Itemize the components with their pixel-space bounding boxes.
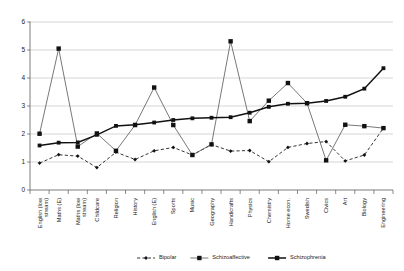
data-point-marker bbox=[152, 149, 156, 153]
x-tick-label: Sports bbox=[170, 198, 176, 214]
data-point-marker bbox=[114, 149, 118, 153]
x-tick-label: Swedish bbox=[304, 198, 310, 219]
x-tick-label: Home econ. bbox=[285, 198, 291, 229]
data-point-marker bbox=[229, 149, 233, 153]
legend-marker-swatch bbox=[197, 256, 201, 260]
data-point-marker bbox=[228, 39, 232, 43]
y-tick-label: 5 bbox=[21, 46, 25, 53]
data-point-marker bbox=[95, 166, 99, 170]
legend-label: Schizophrenia bbox=[290, 254, 326, 260]
data-point-marker bbox=[190, 153, 194, 157]
x-tick-label-line: Biology bbox=[361, 198, 367, 217]
data-point-marker bbox=[343, 123, 347, 127]
data-point-marker bbox=[343, 95, 347, 99]
data-point-marker bbox=[248, 111, 252, 115]
data-point-marker bbox=[171, 123, 175, 127]
x-tick-label-line: Home econ. bbox=[285, 198, 291, 229]
x-tick-label: Engineering bbox=[380, 198, 386, 228]
y-tick-label: 1 bbox=[21, 158, 25, 165]
data-point-marker bbox=[305, 101, 309, 105]
series-lines-group bbox=[40, 41, 384, 167]
x-tick-label-line: Handicrafts bbox=[228, 198, 234, 226]
y-tick-label: 3 bbox=[21, 102, 25, 109]
x-tick-label: Childcare bbox=[94, 198, 100, 222]
data-point-marker bbox=[37, 132, 41, 136]
x-tick-label: Maths (lowstream) bbox=[75, 197, 87, 225]
x-tick-label-line: Sports bbox=[170, 198, 176, 214]
chart-legend: BipolarSchizoaffectiveSchizophrenia bbox=[137, 254, 326, 260]
data-point-marker bbox=[133, 158, 137, 162]
data-point-marker bbox=[362, 124, 366, 128]
x-tick-label-line: English (E) bbox=[151, 198, 157, 225]
x-tick-label-line: Geography bbox=[209, 198, 215, 226]
data-point-marker bbox=[248, 119, 252, 123]
x-tick-label-line: Civics bbox=[323, 198, 329, 213]
data-point-marker bbox=[209, 142, 213, 146]
x-tick-label-line: stream) bbox=[43, 198, 49, 217]
data-point-marker bbox=[381, 126, 385, 130]
legend-marker-swatch bbox=[275, 256, 279, 260]
data-point-marker bbox=[267, 98, 271, 102]
x-tick-label-line: Chemistry bbox=[266, 198, 272, 223]
x-tick-label: Physics bbox=[247, 198, 253, 217]
data-point-marker bbox=[286, 102, 290, 106]
data-point-marker bbox=[305, 142, 309, 146]
x-tick-label: Civics bbox=[323, 198, 329, 213]
legend-item-schizoaffective[interactable]: Schizoaffective bbox=[190, 254, 250, 260]
x-tick-label-line: Childcare bbox=[94, 198, 100, 222]
legend-item-bipolar[interactable]: Bipolar bbox=[137, 254, 177, 260]
y-axis-tick-labels: 0123456 bbox=[21, 18, 25, 193]
x-tick-label-line: Maths (E) bbox=[56, 198, 62, 222]
data-point-marker bbox=[286, 81, 290, 85]
x-tick-label: Maths (E) bbox=[56, 198, 62, 222]
x-tick-label-line: stream) bbox=[81, 198, 87, 217]
legend-label: Schizoaffective bbox=[212, 254, 250, 260]
x-tick-label-line: Art bbox=[342, 198, 348, 206]
data-point-marker bbox=[267, 160, 271, 164]
legend-item-schizophrenia[interactable]: Schizophrenia bbox=[268, 254, 326, 260]
x-tick-label: Biology bbox=[361, 198, 367, 217]
y-tick-marks-group bbox=[27, 22, 30, 190]
x-tick-label-line: Religion bbox=[113, 198, 119, 218]
data-point-marker bbox=[248, 149, 252, 153]
line-chart: 0123456 English (lowstream)Maths (E)Math… bbox=[0, 0, 404, 271]
x-tick-label-line: Maths (low bbox=[75, 197, 81, 225]
x-tick-label: English (lowstream) bbox=[37, 197, 49, 228]
x-tick-label: English (E) bbox=[151, 198, 157, 225]
x-tick-label: Handicrafts bbox=[228, 198, 234, 226]
x-tick-label: Chemistry bbox=[266, 198, 272, 223]
data-point-marker bbox=[57, 153, 61, 157]
x-tick-label: Religion bbox=[113, 198, 119, 218]
x-tick-label-line: History bbox=[132, 198, 138, 216]
data-point-marker bbox=[114, 124, 118, 128]
data-point-marker bbox=[76, 144, 80, 148]
data-point-marker bbox=[286, 146, 290, 150]
x-axis-tick-labels: English (lowstream)Maths (E)Maths (lowst… bbox=[37, 197, 387, 228]
data-point-marker bbox=[171, 118, 175, 122]
data-point-marker bbox=[152, 85, 156, 89]
data-point-marker bbox=[152, 121, 156, 125]
x-tick-label-line: Swedish bbox=[304, 198, 310, 219]
data-point-marker bbox=[362, 87, 366, 91]
y-tick-label: 4 bbox=[21, 74, 25, 81]
data-point-marker bbox=[95, 133, 99, 137]
data-point-marker bbox=[76, 154, 80, 158]
data-point-marker bbox=[76, 141, 80, 145]
y-tick-label: 6 bbox=[21, 18, 25, 25]
x-tick-label-line: Engineering bbox=[380, 198, 386, 228]
x-tick-label-line: Music bbox=[189, 198, 195, 213]
x-tick-label: Music bbox=[189, 198, 195, 213]
data-point-marker bbox=[38, 144, 42, 148]
data-point-marker bbox=[324, 99, 328, 103]
x-tick-label: Geography bbox=[209, 198, 215, 226]
x-tick-label-line: English (low bbox=[37, 197, 43, 228]
series-markers-group bbox=[37, 39, 385, 169]
x-tick-label-line: Physics bbox=[247, 198, 253, 217]
data-point-marker bbox=[267, 105, 271, 109]
data-point-marker bbox=[382, 66, 386, 70]
y-tick-label: 0 bbox=[21, 186, 25, 193]
x-tick-marks-group bbox=[30, 190, 393, 194]
data-point-marker bbox=[56, 46, 60, 50]
legend-label: Bipolar bbox=[159, 254, 177, 260]
data-point-marker bbox=[133, 123, 137, 127]
